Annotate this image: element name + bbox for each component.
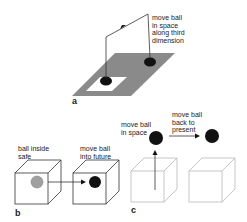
- panel-c-graphic: [131, 158, 235, 202]
- label-c-right: move ball back to present: [172, 111, 202, 134]
- panel-letter-c: c: [131, 205, 136, 215]
- panel-letter-a: a: [72, 96, 77, 106]
- ball-dark-icon: [149, 131, 163, 145]
- diagram-canvas: [0, 0, 247, 222]
- ball-dark-icon: [89, 176, 101, 188]
- label-b-right: move ball into future: [80, 145, 111, 160]
- ball-lifted-icon: [144, 58, 156, 67]
- label-c-left: move ball in space: [121, 121, 151, 136]
- arrow-head-icon: [195, 134, 200, 139]
- ball-gray-icon: [31, 176, 43, 188]
- ball-dark-icon: [205, 129, 219, 143]
- label-a: move ball in space along third dimension: [152, 14, 185, 44]
- arrow-head-icon: [153, 150, 158, 155]
- arrow-head-icon: [81, 180, 86, 185]
- panel-letter-b: b: [15, 208, 21, 218]
- panel-b-graphic: [15, 160, 119, 204]
- label-b-left: ball inside safe: [18, 145, 49, 160]
